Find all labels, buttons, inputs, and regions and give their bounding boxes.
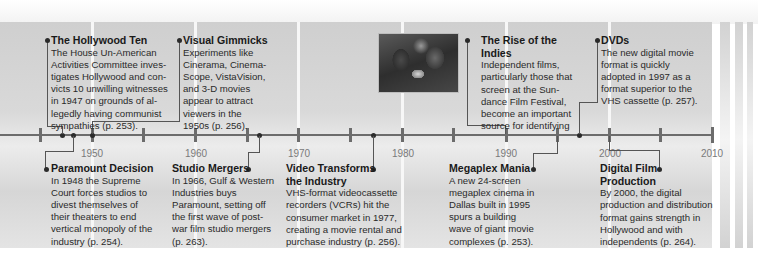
event-text: the first wave of post- bbox=[172, 211, 292, 223]
fade-strip bbox=[747, 22, 753, 248]
connector-line bbox=[533, 153, 558, 154]
event-text: Paramount, setting off bbox=[172, 199, 292, 211]
event-rise-of-indies: The Rise of the Indies Independent films… bbox=[481, 34, 591, 132]
event-text: VHS-format videocassette bbox=[286, 187, 411, 199]
event-text: complexes (p. 253). bbox=[449, 236, 549, 248]
fade-strip bbox=[720, 22, 730, 248]
event-title: Indies bbox=[481, 47, 591, 60]
top-fade bbox=[0, 0, 758, 24]
event-text: Industries buys bbox=[172, 187, 292, 199]
event-text: independents (p. 264). bbox=[600, 236, 720, 248]
event-text: format gains strength in bbox=[600, 212, 720, 224]
event-text: become an important bbox=[481, 108, 591, 120]
event-text: sympathies (p. 253). bbox=[51, 120, 181, 132]
year-label: 1970 bbox=[279, 148, 319, 159]
event-text: Activities Committee inves- bbox=[51, 59, 181, 71]
event-text: particularly those that bbox=[481, 71, 591, 83]
year-label: 1980 bbox=[383, 148, 423, 159]
event-dvds: DVDs The new digital movie format is qui… bbox=[601, 34, 711, 108]
year-label: 1990 bbox=[486, 148, 526, 159]
event-title: Studio Mergers bbox=[172, 162, 292, 175]
event-text: purchase industry (p. 256). bbox=[286, 236, 411, 248]
event-text: Independent films, bbox=[481, 59, 591, 71]
event-text: Hollywood and with bbox=[600, 224, 720, 236]
event-text: and 3-D movies bbox=[183, 83, 273, 95]
event-title: The Rise of the bbox=[481, 34, 591, 47]
event-text: In 1948 the Supreme bbox=[51, 175, 181, 187]
connector-line bbox=[467, 40, 468, 125]
event-studio-mergers: Studio Mergers In 1966, Gulf & Western I… bbox=[172, 162, 292, 248]
event-dot bbox=[465, 38, 470, 43]
year-label: 1950 bbox=[72, 148, 112, 159]
event-text: tigates Hollywood and con- bbox=[51, 71, 181, 83]
event-text: victs 10 unwilling witnesses bbox=[51, 83, 181, 95]
event-text: A new 24-screen bbox=[449, 175, 549, 187]
event-text: adopted in 1997 as a bbox=[601, 71, 711, 83]
event-visual-gimmicks: Visual Gimmicks Experiments like Cineram… bbox=[183, 34, 273, 132]
connector-line bbox=[609, 136, 610, 150]
event-text: dance Film Festival, bbox=[481, 96, 591, 108]
event-text: Court forces studios to bbox=[51, 187, 181, 199]
event-text: vertical monopoly of the bbox=[51, 223, 181, 235]
event-title: The Hollywood Ten bbox=[51, 34, 181, 47]
event-text: 1950s (p. 256). bbox=[183, 120, 273, 132]
indie-film-photo bbox=[378, 33, 459, 93]
event-text: spurs a building bbox=[449, 211, 549, 223]
event-video-transforms: Video Transforms the Industry VHS-format… bbox=[286, 162, 411, 248]
event-title: Megaplex Mania bbox=[449, 162, 549, 175]
event-text: war film studio mergers bbox=[172, 223, 292, 235]
event-text: Cinerama, Cinema- bbox=[183, 59, 273, 71]
event-paramount-decision: Paramount Decision In 1948 the Supreme C… bbox=[51, 162, 181, 248]
event-title: Video Transforms bbox=[286, 162, 411, 175]
event-dot bbox=[45, 38, 50, 43]
event-megaplex-mania: Megaplex Mania A new 24-screen megaplex … bbox=[449, 162, 549, 248]
event-text: screen at the Sun- bbox=[481, 84, 591, 96]
tick-2005 bbox=[659, 128, 662, 142]
event-text: format is quickly bbox=[601, 59, 711, 71]
event-digital-film-production: Digital Film Production By 2000, the dig… bbox=[600, 162, 720, 248]
tick-1985 bbox=[452, 128, 455, 142]
event-title: Visual Gimmicks bbox=[183, 34, 273, 47]
event-text: megaplex cinema in bbox=[449, 187, 549, 199]
event-text: Experiments like bbox=[183, 47, 273, 59]
connector-line bbox=[557, 136, 558, 153]
event-text: appear to attract bbox=[183, 95, 273, 107]
event-text: creating a movie rental and bbox=[286, 224, 411, 236]
connector-line bbox=[73, 136, 74, 151]
year-label: 2010 bbox=[692, 148, 732, 159]
event-text: legedly having communist bbox=[51, 108, 181, 120]
tick-1980 bbox=[401, 128, 404, 142]
event-text: divest themselves of bbox=[51, 199, 181, 211]
event-text: consumer market in 1977, bbox=[286, 212, 411, 224]
tick-1975 bbox=[349, 128, 352, 142]
event-text: By 2000, the digital bbox=[600, 187, 720, 199]
event-text: format superior to the bbox=[601, 83, 711, 95]
event-text: VHS cassette (p. 257). bbox=[601, 95, 711, 107]
event-text: Scope, VistaVision, bbox=[183, 71, 273, 83]
event-text: in 1947 on grounds of al- bbox=[51, 95, 181, 107]
event-dot bbox=[595, 38, 600, 43]
event-hollywood-ten: The Hollywood Ten The House Un-American … bbox=[51, 34, 181, 132]
timeline-axis bbox=[0, 134, 713, 136]
event-text: source for identifying bbox=[481, 120, 591, 132]
event-text: The House Un-American bbox=[51, 47, 181, 59]
connector-line bbox=[248, 152, 260, 153]
event-text: In 1966, Gulf & Western bbox=[172, 175, 292, 187]
event-text: their theaters to end bbox=[51, 211, 181, 223]
event-text: wave of giant movie bbox=[449, 223, 549, 235]
event-text: viewers in the bbox=[183, 108, 273, 120]
connector-line bbox=[609, 150, 660, 151]
connector-line bbox=[47, 40, 48, 126]
event-text: industry (p. 254). bbox=[51, 236, 181, 248]
event-dot bbox=[44, 167, 49, 172]
event-title: the Industry bbox=[286, 175, 411, 188]
event-text: recorders (VCRs) hit the bbox=[286, 199, 411, 211]
event-text: The new digital movie bbox=[601, 47, 711, 59]
event-title: DVDs bbox=[601, 34, 711, 47]
event-text: Dallas built in 1995 bbox=[449, 199, 549, 211]
event-text: (p. 263). bbox=[172, 236, 292, 248]
fade-strip bbox=[735, 22, 743, 248]
year-label: 1960 bbox=[176, 148, 216, 159]
connector-line bbox=[259, 136, 260, 152]
tick-1970 bbox=[297, 128, 300, 142]
